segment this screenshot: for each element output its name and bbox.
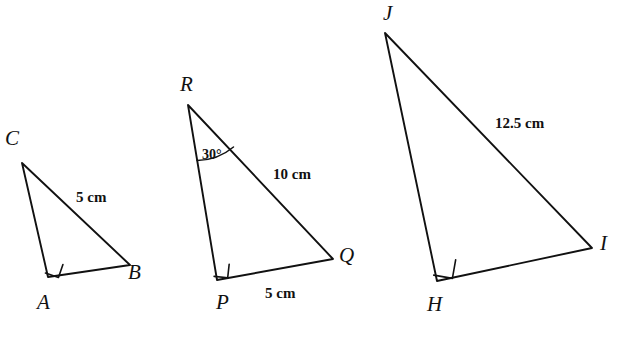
triangle-abc-outline [22, 163, 130, 277]
angle-label-r: 30° [202, 148, 222, 162]
side-label-ji: 12.5 cm [495, 116, 544, 131]
vertex-label-b: B [128, 262, 141, 283]
triangles-canvas [0, 0, 626, 340]
side-label-rq: 10 cm [273, 167, 311, 182]
vertex-label-h: H [427, 294, 442, 315]
triangle-pqr-shape [188, 105, 333, 280]
side-label-pq: 5 cm [265, 286, 295, 301]
vertex-label-p: P [216, 292, 229, 313]
side-label-cb: 5 cm [76, 190, 106, 205]
vertex-label-c: C [5, 128, 19, 149]
triangle-hij-outline [385, 33, 592, 281]
triangle-hij-shape [385, 33, 592, 281]
vertex-label-i: I [600, 233, 607, 254]
geometry-figure: C A B 5 cm R P Q 10 cm 5 cm 30° J H I 12… [0, 0, 626, 340]
vertex-label-r: R [180, 74, 193, 95]
triangle-abc-shape [22, 163, 130, 278]
triangle-pqr-outline [188, 105, 333, 280]
right-angle-marker-h [433, 260, 456, 279]
vertex-label-j: J [383, 3, 392, 24]
vertex-label-q: Q [339, 245, 354, 266]
vertex-label-a: A [37, 292, 50, 313]
